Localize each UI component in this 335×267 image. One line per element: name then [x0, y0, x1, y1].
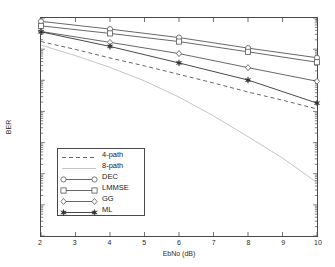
legend-swatch-dec [58, 171, 100, 182]
legend-item-lmmse[interactable]: LMMSE [58, 182, 144, 193]
x-tick-label: 4 [108, 239, 112, 246]
legend-item-4-path[interactable]: 4-path [58, 149, 144, 160]
x-tick-label: 10 [314, 239, 322, 246]
legend-swatch-gg [58, 193, 100, 204]
legend-label: 4-path [100, 149, 123, 160]
legend-swatch-4-path [58, 149, 100, 160]
x-tick-label: 9 [281, 239, 285, 246]
legend-item-ml[interactable]: ML [58, 204, 144, 215]
legend-item-8-path[interactable]: 8-path [58, 160, 144, 171]
legend-label: ML [100, 204, 112, 215]
y-axis-label: BER [5, 120, 12, 134]
data-marker [314, 60, 319, 65]
x-tick-label: 2 [38, 239, 42, 246]
legend: 4-path8-pathDECLMMSEGGML [57, 148, 145, 216]
x-tick-label: 6 [177, 239, 181, 246]
legend-swatch-lmmse [58, 182, 100, 193]
data-marker [245, 77, 251, 83]
x-axis-label: EbNo (dB) [163, 250, 196, 257]
legend-swatch-8-path [58, 160, 100, 171]
data-marker [245, 49, 250, 54]
figure: BER EbNo (dB) 4-path8-pathDECLMMSEGGML 1… [0, 0, 335, 267]
data-marker [245, 65, 250, 71]
data-marker [107, 31, 112, 36]
legend-item-dec[interactable]: DEC [58, 171, 144, 182]
legend-label: 8-path [100, 160, 123, 171]
data-marker [314, 100, 320, 106]
x-tick-label: 7 [212, 239, 216, 246]
x-tick-label: 3 [73, 239, 77, 246]
legend-label: GG [100, 193, 114, 204]
x-tick-label: 5 [142, 239, 146, 246]
legend-swatch-ml [58, 204, 100, 215]
data-marker [176, 39, 181, 44]
legend-item-gg[interactable]: GG [58, 193, 144, 204]
data-marker [38, 23, 43, 28]
legend-label: DEC [100, 171, 118, 182]
data-marker [314, 78, 319, 84]
x-tick-label: 8 [247, 239, 251, 246]
data-marker [176, 51, 181, 57]
legend-label: LMMSE [100, 182, 129, 193]
data-marker [176, 60, 182, 66]
